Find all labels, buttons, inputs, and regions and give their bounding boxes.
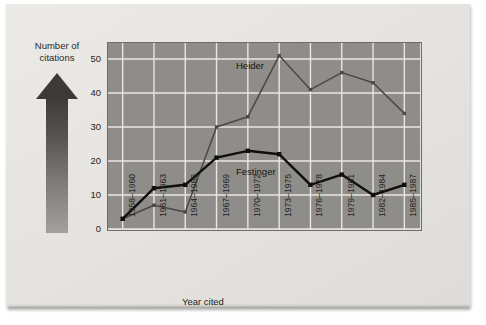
- figure-container: Number of citations 01020304050 1958–196…: [0, 0, 486, 325]
- data-point: [215, 125, 218, 128]
- data-point: [214, 155, 218, 159]
- data-point: [277, 54, 280, 57]
- x-axis-title: Year cited: [182, 296, 224, 307]
- x-tick-label: 1967–1969: [221, 174, 231, 234]
- up-arrow-icon: [36, 73, 78, 233]
- y-tick-label: 0: [77, 223, 101, 234]
- x-tick-label: 1976–1978: [314, 174, 324, 234]
- series-label-festinger: Festinger: [236, 166, 276, 177]
- x-tick-label: 1973–1975: [283, 174, 293, 234]
- data-point: [340, 172, 344, 176]
- data-point: [152, 186, 156, 190]
- y-axis-title-line1: Number of: [14, 40, 100, 52]
- page-shadow: [8, 306, 470, 312]
- data-point: [184, 210, 187, 213]
- data-point: [277, 152, 281, 156]
- data-point: [183, 183, 187, 187]
- x-tick-label: 1970–1972: [252, 174, 262, 234]
- data-point: [402, 183, 406, 187]
- y-tick-label: 50: [77, 53, 101, 64]
- data-point: [403, 112, 406, 115]
- arrow-shaft: [46, 98, 68, 233]
- x-tick-label: 1964–1966: [189, 174, 199, 234]
- data-point: [246, 115, 249, 118]
- y-tick-label: 10: [77, 189, 101, 200]
- series-label-heider: Heider: [236, 60, 264, 71]
- x-tick-label: 1979–1981: [346, 174, 356, 234]
- data-point: [371, 193, 375, 197]
- y-tick-label: 20: [77, 155, 101, 166]
- x-tick-label: 1958–1960: [127, 174, 137, 234]
- data-point: [371, 81, 374, 84]
- arrow-head: [36, 73, 78, 99]
- x-tick-label: 1982–1984: [377, 174, 387, 234]
- data-point: [309, 88, 312, 91]
- data-point: [246, 149, 250, 153]
- data-point: [340, 71, 343, 74]
- y-tick-label: 30: [77, 121, 101, 132]
- x-tick-label: 1985–1987: [408, 174, 418, 234]
- x-tick-label: 1961–1963: [158, 174, 168, 234]
- data-point: [120, 217, 124, 221]
- data-point: [152, 204, 155, 207]
- data-point: [308, 183, 312, 187]
- y-tick-label: 40: [77, 87, 101, 98]
